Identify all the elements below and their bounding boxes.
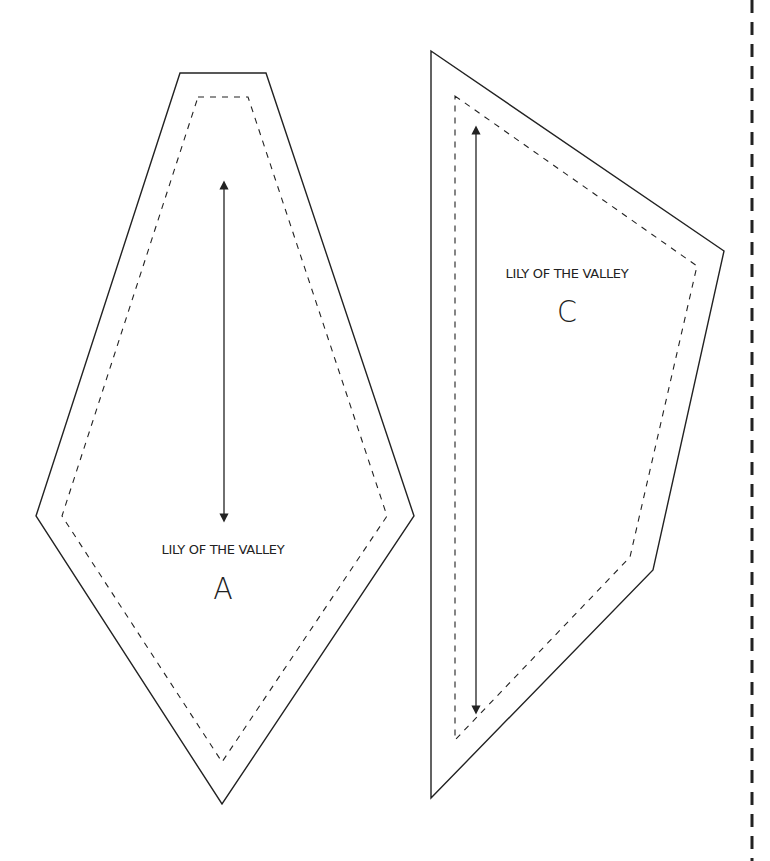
- pattern-sheet: LILY OF THE VALLEY A LILY OF THE VALLEY …: [0, 0, 770, 861]
- piece-c: [431, 51, 724, 798]
- piece-c-cut-outline: [431, 51, 724, 798]
- piece-a-letter-label: A: [199, 571, 247, 606]
- piece-a-cut-outline: [36, 73, 414, 804]
- piece-c-seam-line: [455, 96, 697, 740]
- piece-a-name-label: LILY OF THE VALLEY: [148, 542, 298, 557]
- piece-c-letter-label: C: [543, 294, 591, 329]
- piece-c-name-label: LILY OF THE VALLEY: [492, 266, 642, 281]
- pattern-drawing: [0, 0, 770, 861]
- piece-a: [36, 73, 414, 804]
